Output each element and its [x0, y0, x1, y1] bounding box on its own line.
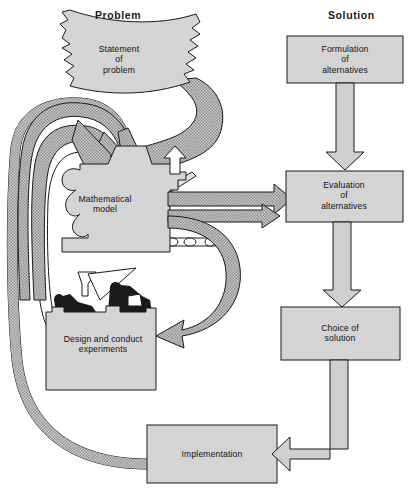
node-design-and-conduct-experiments [46, 268, 156, 390]
node-label-mathematical-model: Mathematical model [79, 194, 132, 215]
node-label-evaluation-of-alternatives: Evaluation of alternatives [321, 180, 367, 211]
column-header-solution: Solution [328, 9, 375, 21]
process-flow-diagram: Problem Solution Statement of problem Ma… [0, 0, 413, 496]
node-label-statement-of-problem: Statement of problem [99, 44, 140, 75]
node-label-choice-of-solution: Choice of solution [321, 323, 359, 344]
column-header-problem: Problem [95, 9, 141, 21]
connector-formulation-to-evaluation [326, 83, 364, 170]
connector-choice-to-implementation [272, 360, 348, 471]
connector-evaluation-to-choice [323, 222, 361, 307]
node-label-implementation: Implementation [182, 449, 243, 459]
node-label-design-and-conduct-experiments: Design and conduct experiments [64, 334, 143, 355]
node-label-formulation-of-alternatives: Formulation of alternatives [321, 44, 368, 75]
